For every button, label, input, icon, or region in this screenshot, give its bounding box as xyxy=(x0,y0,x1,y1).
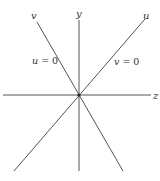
v-equals-zero-eq: = 0 xyxy=(119,56,139,67)
uv-coordinate-diagram: y z u v u = 0 v = 0 xyxy=(0,0,160,181)
z-axis-label: z xyxy=(152,90,159,101)
v-axis-label: v xyxy=(31,10,37,21)
v-axis-line xyxy=(37,22,123,171)
u-axis-label: u xyxy=(143,10,149,21)
u-equals-zero-label: u = 0 xyxy=(32,55,58,66)
v-equals-zero-label: v = 0 xyxy=(114,56,139,67)
origin-point xyxy=(77,93,80,96)
u-equals-zero-eq: = 0 xyxy=(38,55,58,66)
y-axis-label: y xyxy=(75,8,82,19)
diagram-canvas: y z u v u = 0 v = 0 xyxy=(0,0,160,181)
